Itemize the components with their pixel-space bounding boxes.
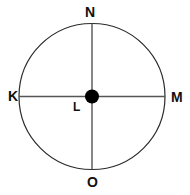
- label-point-m: M: [171, 90, 183, 104]
- label-point-l: L: [73, 101, 80, 113]
- center-point-dot: [85, 90, 99, 104]
- circle-diagram: N K M O L: [0, 0, 190, 195]
- label-point-n: N: [85, 5, 95, 19]
- label-point-o: O: [87, 175, 98, 189]
- label-point-k: K: [8, 89, 18, 103]
- diagram-graphics: [0, 0, 190, 195]
